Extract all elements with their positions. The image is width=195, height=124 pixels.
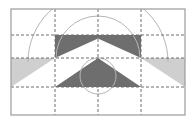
geometry-diagram bbox=[0, 0, 195, 124]
figure-container bbox=[0, 0, 195, 124]
